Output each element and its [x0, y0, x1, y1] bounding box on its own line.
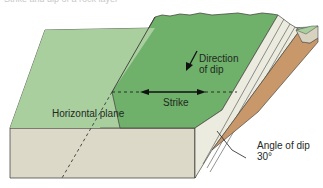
- label-direction-of-dip: Direction of dip: [199, 53, 238, 75]
- label-angle-value: 30°: [257, 151, 272, 162]
- label-horizontal-plane: Horizontal plane: [52, 108, 124, 119]
- strike-dip-diagram: [0, 0, 323, 188]
- block-front-face: [10, 128, 195, 178]
- label-angle-of-dip: Angle of dip: [257, 140, 310, 151]
- label-strike: Strike: [163, 97, 189, 108]
